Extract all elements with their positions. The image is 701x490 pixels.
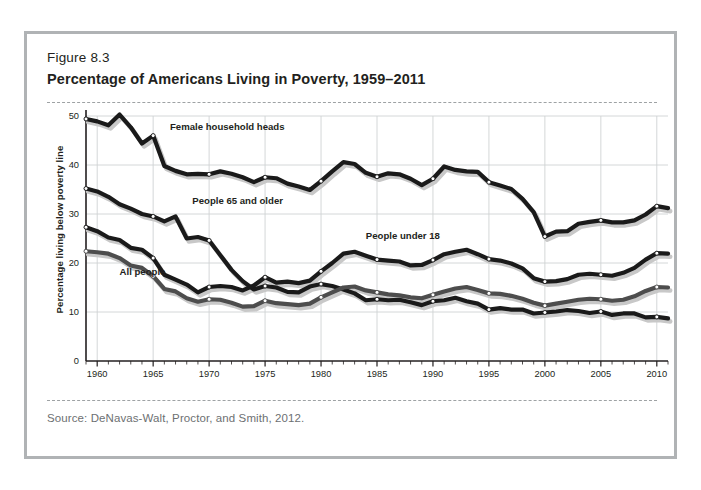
y-axis-title: Percentage living below poverty line <box>54 130 65 330</box>
x-tick-label: 1965 <box>143 369 164 379</box>
data-point-marker <box>319 179 323 183</box>
data-point-marker <box>151 134 155 138</box>
data-point-marker <box>487 180 491 184</box>
data-point-marker <box>84 225 88 229</box>
data-point-marker <box>151 214 155 218</box>
x-tick-label: 1975 <box>255 369 276 379</box>
x-tick-label: 2000 <box>535 369 556 379</box>
y-tick-label: 50 <box>69 111 79 121</box>
data-point-marker <box>655 285 659 289</box>
poverty-line-chart: 0102030405019601965197019751980198519901… <box>27 106 680 396</box>
y-tick-label: 30 <box>69 209 79 219</box>
data-point-marker <box>599 297 603 301</box>
y-tick-label: 0 <box>74 356 79 366</box>
figure-number: Figure 8.3 <box>47 50 110 65</box>
data-point-marker <box>431 293 435 297</box>
y-tick-label: 40 <box>69 160 79 170</box>
figure-card: Figure 8.3 Percentage of Americans Livin… <box>24 31 677 459</box>
data-point-marker <box>543 235 547 239</box>
data-point-marker <box>543 304 547 308</box>
data-point-marker <box>487 257 491 261</box>
x-tick-label: 1995 <box>479 369 500 379</box>
series-label: Female household heads <box>170 121 285 132</box>
data-point-marker <box>319 269 323 273</box>
x-tick-label: 2010 <box>646 369 667 379</box>
series-label: People 65 and older <box>192 195 283 206</box>
data-point-marker <box>543 280 547 284</box>
x-tick-label: 1980 <box>311 369 332 379</box>
data-point-marker <box>84 249 88 253</box>
data-point-marker <box>84 117 88 121</box>
y-tick-label: 20 <box>69 258 79 268</box>
data-point-marker <box>263 275 267 279</box>
data-point-marker <box>207 172 211 176</box>
divider-bottom <box>47 400 657 401</box>
data-point-marker <box>151 256 155 260</box>
data-point-marker <box>263 284 267 288</box>
data-point-marker <box>655 204 659 208</box>
data-point-marker <box>543 310 547 314</box>
series-label: All people <box>120 266 166 277</box>
data-point-marker <box>599 273 603 277</box>
chart-plot-area: Percentage living below poverty line 010… <box>27 106 680 396</box>
data-point-marker <box>207 285 211 289</box>
data-point-marker <box>487 308 491 312</box>
data-point-marker <box>599 310 603 314</box>
data-point-marker <box>319 295 323 299</box>
x-tick-label: 2005 <box>591 369 612 379</box>
x-tick-label: 1990 <box>423 369 444 379</box>
divider-top <box>47 102 657 103</box>
x-tick-label: 1970 <box>199 369 220 379</box>
series-label: People under 18 <box>366 230 441 241</box>
data-point-marker <box>431 177 435 181</box>
data-point-marker <box>84 187 88 191</box>
data-point-marker <box>375 297 379 301</box>
data-point-marker <box>431 258 435 262</box>
x-tick-label: 1960 <box>87 369 108 379</box>
data-point-marker <box>655 315 659 319</box>
data-point-marker <box>375 258 379 262</box>
data-point-marker <box>487 291 491 295</box>
data-point-marker <box>263 299 267 303</box>
data-point-marker <box>431 299 435 303</box>
data-point-marker <box>319 282 323 286</box>
data-point-marker <box>375 290 379 294</box>
x-tick-label: 1985 <box>367 369 388 379</box>
source-note: Source: DeNavas-Walt, Proctor, and Smith… <box>47 412 304 424</box>
data-point-marker <box>207 297 211 301</box>
data-point-marker <box>263 175 267 179</box>
figure-inner: Figure 8.3 Percentage of Americans Livin… <box>27 34 674 456</box>
data-point-marker <box>207 238 211 242</box>
data-point-marker <box>375 175 379 179</box>
y-tick-label: 10 <box>69 307 79 317</box>
data-point-marker <box>599 218 603 222</box>
figure-title: Percentage of Americans Living in Povert… <box>47 71 425 87</box>
data-point-marker <box>655 251 659 255</box>
